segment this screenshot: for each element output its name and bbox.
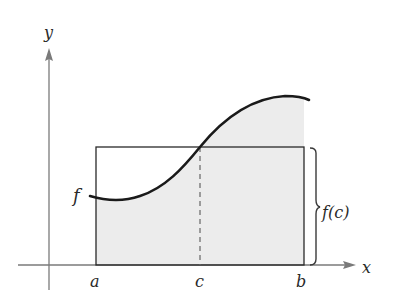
point-a-label: a bbox=[90, 272, 100, 291]
mvt-diagram: y x f a c b f(c) bbox=[0, 0, 393, 307]
y-axis-label: y bbox=[43, 23, 54, 42]
function-label: f bbox=[71, 185, 83, 206]
height-label: f(c) bbox=[321, 203, 349, 222]
point-c-label: c bbox=[195, 272, 204, 291]
brace-icon bbox=[310, 148, 320, 265]
x-axis-label: x bbox=[362, 258, 371, 277]
point-b-label: b bbox=[296, 272, 306, 291]
